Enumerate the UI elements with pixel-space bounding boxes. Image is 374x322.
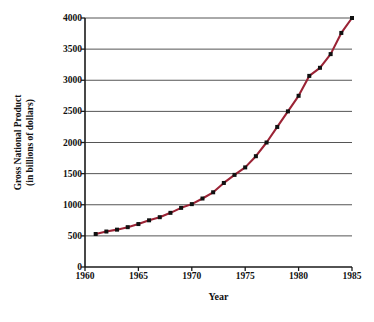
chart-figure: Gross National Product (in billions of d… [0, 0, 374, 322]
x-axis-tick-label: 1980 [289, 271, 308, 281]
x-axis-tick-labels: 196019651970197519801985 [0, 0, 374, 322]
x-axis-title: Year [85, 291, 352, 302]
x-axis-tick-label: 1985 [343, 271, 362, 281]
x-axis-tick-label: 1970 [182, 271, 201, 281]
x-axis-tick-label: 1960 [76, 271, 95, 281]
x-axis-tick-label: 1965 [129, 271, 148, 281]
x-axis-tick-label: 1975 [236, 271, 255, 281]
